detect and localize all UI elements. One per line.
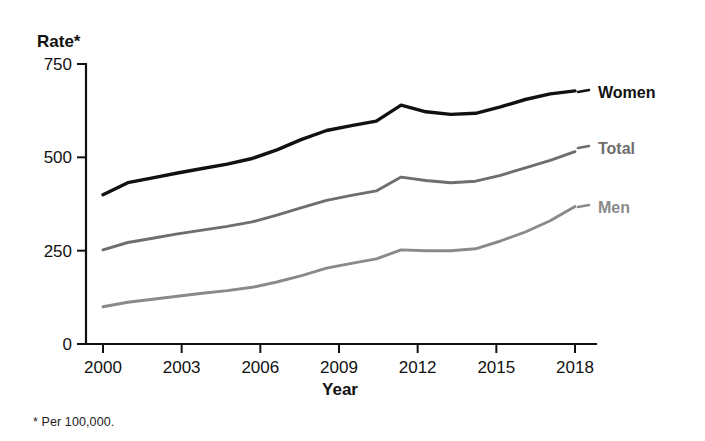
series-layer	[103, 91, 575, 307]
legend-label-women: Women	[598, 84, 655, 101]
series-line-total	[103, 152, 575, 250]
y-tick-label-250: 250	[44, 242, 72, 261]
x-axis-ticks	[103, 344, 575, 353]
x-tick-label-2018: 2018	[556, 358, 594, 377]
legend-swatch-total	[578, 146, 589, 148]
legend-swatch-women	[578, 90, 589, 92]
x-tick-label-2003: 2003	[163, 358, 201, 377]
line-chart: Rate* 7505002500 20002003200620092012201…	[0, 0, 705, 441]
y-axis-tick-labels: 7505002500	[44, 55, 72, 354]
x-tick-label-2015: 2015	[477, 358, 515, 377]
chart-footnote: * Per 100,000.	[33, 415, 114, 429]
x-tick-label-2012: 2012	[399, 358, 437, 377]
legend-swatch-men	[578, 205, 589, 207]
y-axis-ticks	[77, 64, 86, 344]
y-tick-label-0: 0	[63, 335, 72, 354]
x-axis-tick-labels: 2000200320062009201220152018	[84, 358, 594, 377]
x-axis-title: Year	[322, 380, 358, 399]
chart-legend: WomenTotalMen	[578, 84, 655, 216]
series-line-women	[103, 91, 575, 195]
legend-label-men: Men	[598, 199, 630, 216]
legend-label-total: Total	[598, 140, 635, 157]
y-axis-title: Rate*	[37, 32, 81, 51]
chart-svg: Rate* 7505002500 20002003200620092012201…	[0, 0, 705, 441]
x-tick-label-2006: 2006	[241, 358, 279, 377]
y-tick-label-750: 750	[44, 55, 72, 74]
x-tick-label-2000: 2000	[84, 358, 122, 377]
x-tick-label-2009: 2009	[320, 358, 358, 377]
y-tick-label-500: 500	[44, 148, 72, 167]
series-line-men	[103, 207, 575, 307]
